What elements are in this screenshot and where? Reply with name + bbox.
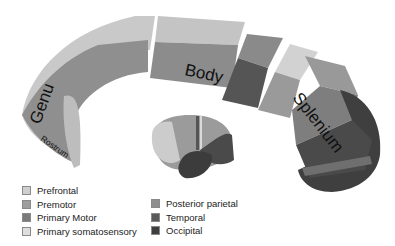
- legend-item-occipital: Occipital: [151, 224, 238, 238]
- swatch-primary-somatosensory: [22, 227, 31, 236]
- legend-item-prefrontal: Prefrontal: [22, 184, 137, 198]
- legend-label: Primary Motor: [37, 212, 97, 223]
- legend-label: Occipital: [166, 225, 202, 236]
- legend-col-1: Prefrontal Premotor Primary Motor Primar…: [22, 184, 137, 238]
- legend-item-premotor: Premotor: [22, 198, 137, 212]
- swatch-primary-motor: [22, 213, 31, 222]
- legend-label: Temporal: [166, 212, 205, 223]
- swatch-prefrontal: [22, 186, 31, 195]
- legend-label: Prefrontal: [37, 185, 78, 196]
- legend-item-posterior-parietal: Posterior parietal: [151, 197, 238, 211]
- legend-label: Primary somatosensory: [37, 226, 137, 237]
- cross-section: [152, 115, 234, 178]
- legend-item-primary-motor: Primary Motor: [22, 211, 137, 225]
- swatch-temporal: [151, 213, 160, 222]
- legend-item-temporal: Temporal: [151, 211, 238, 225]
- swatch-premotor: [22, 200, 31, 209]
- splenium-segment: [292, 56, 380, 192]
- legend-label: Posterior parietal: [166, 198, 238, 209]
- legend-item-primary-somatosensory: Primary somatosensory: [22, 225, 137, 239]
- swatch-posterior-parietal: [151, 199, 160, 208]
- legend-label: Premotor: [37, 199, 76, 210]
- swatch-occipital: [151, 226, 160, 235]
- legend-col-2: Posterior parietal Temporal Occipital: [151, 197, 238, 238]
